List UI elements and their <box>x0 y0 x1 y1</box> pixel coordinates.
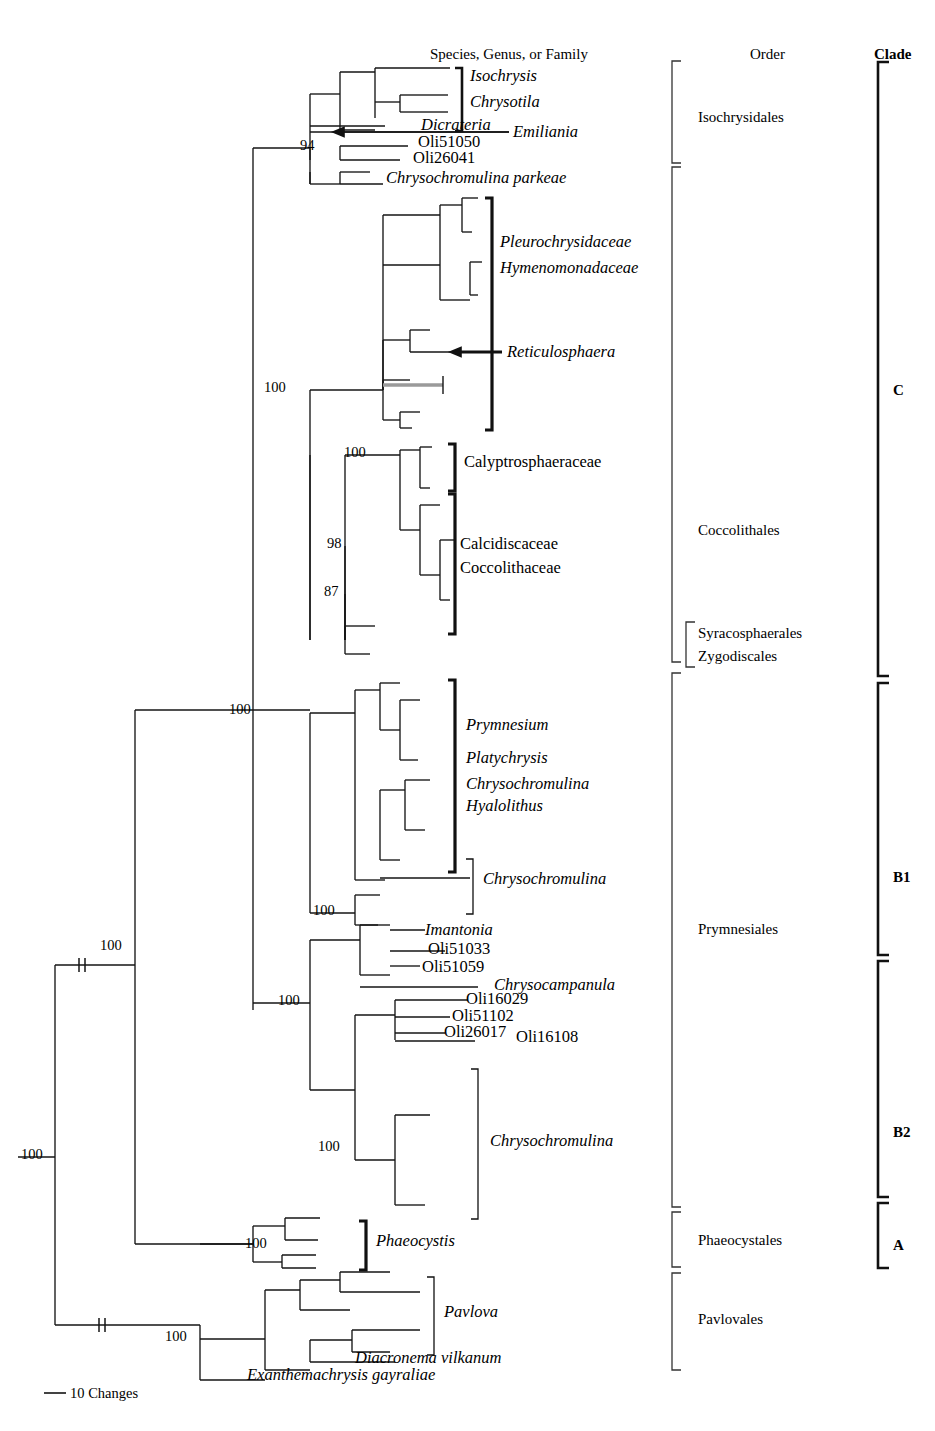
order-column-brackets <box>672 61 695 1370</box>
bootstrap-bs-87: 87 <box>324 583 339 600</box>
taxon-label-chrysochromulina-b2: Chrysochromulina <box>490 1131 613 1151</box>
header-taxa: Species, Genus, or Family <box>430 46 588 63</box>
clade-label-clade-a: A <box>893 1237 904 1254</box>
taxon-label-hyalolithus: Hyalolithus <box>466 796 543 816</box>
taxon-label-oli16108: Oli16108 <box>516 1027 578 1047</box>
br-calcidisc-coccolith <box>448 494 455 634</box>
clade-label-clade-b1: B1 <box>893 869 911 886</box>
br-chrysochromulina-b2 <box>471 1069 478 1219</box>
taxon-label-oli26041: Oli26041 <box>413 148 475 168</box>
order-bracket-isochrysidales <box>672 61 681 163</box>
taxon-label-chrysochromulina-mid: Chrysochromulina <box>483 869 606 889</box>
bootstrap-bs-100-chryso-mid: 100 <box>313 902 335 919</box>
arrow-emiliania-head <box>333 128 344 137</box>
order-bracket-syracosphaerales <box>686 622 695 667</box>
clade-label-clade-c: C <box>893 382 904 399</box>
bootstrap-bs-100-upper-root: 100 <box>100 937 122 954</box>
bootstrap-bs-98: 98 <box>327 535 342 552</box>
order-label-coccolithales: Coccolithales <box>698 522 780 539</box>
br-chrysochromulina-mid <box>466 859 473 914</box>
taxon-label-isochrysis: Isochrysis <box>470 66 537 86</box>
order-label-syracosphaerales: Syracosphaerales <box>698 625 802 642</box>
bootstrap-bs-100-prymbase: 100 <box>229 701 251 718</box>
taxon-label-reticulosphaera: Reticulosphaera <box>507 342 615 362</box>
bootstrap-bs-100-coccolith: 100 <box>344 444 366 461</box>
scale-bar-label: 10 Changes <box>70 1385 138 1402</box>
bootstrap-bs-100-b2: 100 <box>318 1138 340 1155</box>
taxon-label-pavlova: Pavlova <box>444 1302 498 1322</box>
taxa-group-brackets <box>359 68 492 1355</box>
taxon-label-emiliania: Emiliania <box>513 122 578 142</box>
br-prymnesium-group <box>448 680 455 872</box>
header-order: Order <box>750 46 785 63</box>
order-bracket-pavlovales <box>672 1273 681 1370</box>
taxon-label-oli51033: Oli51033 <box>428 939 490 959</box>
clade-bracket-clade-b1 <box>878 683 889 955</box>
clade-label-clade-b2: B2 <box>893 1124 911 1141</box>
order-label-pavlovales: Pavlovales <box>698 1311 763 1328</box>
br-pavlova <box>427 1277 434 1355</box>
order-bracket-coccolithales <box>672 167 681 662</box>
order-label-zygodiscales: Zygodiscales <box>698 648 777 665</box>
taxon-label-chrysotila: Chrysotila <box>470 92 540 112</box>
order-label-isochrysidales: Isochrysidales <box>698 109 784 126</box>
taxon-label-pleurochrysidaceae: Pleurochrysidaceae <box>500 232 631 252</box>
clade-bracket-clade-a <box>878 1203 889 1268</box>
bootstrap-bs-94-isochrysidales: 94 <box>300 137 315 154</box>
order-label-prymnesiales: Prymnesiales <box>698 921 778 938</box>
taxon-label-chrysochromulina-parkeae: Chrysochromulina parkeae <box>386 168 566 188</box>
bootstrap-bs-100-cladec: 100 <box>264 379 286 396</box>
taxon-label-oli26017: Oli26017 <box>444 1022 506 1042</box>
br-calyptrosphaeraceae <box>448 444 455 491</box>
clade-bracket-clade-c <box>878 62 889 676</box>
br-phaeocystis <box>359 1221 366 1270</box>
taxon-label-calcidiscaceae: Calcidiscaceae <box>460 534 558 554</box>
taxon-label-imantonia: Imantonia <box>425 920 493 940</box>
taxon-label-coccolithaceae: Coccolithaceae <box>460 558 561 578</box>
taxon-label-phaeocystis: Phaeocystis <box>376 1231 455 1251</box>
gray-branch-highlight <box>383 376 443 394</box>
order-label-phaeocystales: Phaeocystales <box>698 1232 782 1249</box>
header-clade: Clade <box>874 46 912 63</box>
bootstrap-bs-100-pavlovales: 100 <box>165 1328 187 1345</box>
branch-break-marks <box>79 958 105 1332</box>
bootstrap-bs-100-root: 100 <box>21 1146 43 1163</box>
tree-branch-edges <box>18 68 509 1380</box>
taxon-label-calyptrosphaeraceae: Calyptrosphaeraceae <box>464 452 601 472</box>
clade-bracket-clade-b2 <box>878 961 889 1197</box>
arrow-reticulosphaera-head <box>450 348 461 357</box>
bootstrap-bs-100-phaeocystis: 100 <box>245 1235 267 1252</box>
clade-column-brackets <box>878 62 889 1268</box>
taxon-label-prymnesium: Prymnesium <box>466 715 548 735</box>
order-bracket-phaeocystales <box>672 1212 681 1267</box>
taxon-label-chrysochromulina-b1: Chrysochromulina <box>466 774 589 794</box>
br-pleurochrysidaceae <box>485 198 492 430</box>
taxon-label-exanthemachrysis: Exanthemachrysis gayraliae <box>247 1365 435 1385</box>
figure-root: Species, Genus, or Family Order Clade 10… <box>0 0 935 1431</box>
taxon-label-hymenomonadaceae: Hymenomonadaceae <box>500 258 638 278</box>
bootstrap-bs-100-prym-node: 100 <box>278 992 300 1009</box>
order-bracket-prymnesiales <box>672 673 681 1207</box>
taxon-label-platychrysis: Platychrysis <box>466 748 548 768</box>
taxon-label-oli51059: Oli51059 <box>422 957 484 977</box>
